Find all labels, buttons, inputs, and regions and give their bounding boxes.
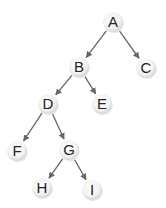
node-c: C xyxy=(136,58,157,79)
node-label: F xyxy=(12,142,21,159)
edge-a-c xyxy=(119,31,139,58)
node-i: I xyxy=(82,180,103,201)
node-label: I xyxy=(90,181,94,198)
node-label: C xyxy=(141,59,152,76)
edge-b-d xyxy=(56,75,72,94)
edge-d-f xyxy=(24,113,42,141)
edge-a-b xyxy=(86,31,106,58)
edge-d-g xyxy=(53,114,64,139)
edge-b-e xyxy=(85,76,96,93)
node-b: B xyxy=(69,57,90,78)
node-g: G xyxy=(59,140,80,161)
tree-svg: ABCDEFGHI xyxy=(0,0,166,208)
node-h: H xyxy=(32,178,53,199)
node-f: F xyxy=(7,141,28,162)
node-label: G xyxy=(63,141,75,158)
node-label: B xyxy=(74,58,84,75)
node-a: A xyxy=(103,12,124,33)
node-e: E xyxy=(92,94,113,115)
node-label: H xyxy=(37,179,48,196)
tree-diagram: ABCDEFGHI xyxy=(0,0,166,208)
node-d: D xyxy=(38,94,59,115)
node-label: A xyxy=(108,13,118,30)
node-label: D xyxy=(43,95,54,112)
edge-g-h xyxy=(49,159,63,178)
edge-g-i xyxy=(74,160,86,180)
node-label: E xyxy=(97,95,107,112)
